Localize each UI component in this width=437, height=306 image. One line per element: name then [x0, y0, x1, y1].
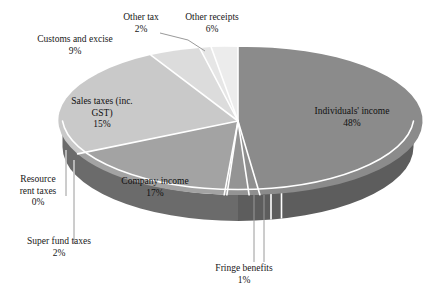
- slice-label-text: Super fund taxes: [27, 236, 91, 246]
- slice-label-individuals-income: Individuals' income 48%: [300, 106, 404, 129]
- slice-label-text: Other receipts: [185, 12, 239, 22]
- slice-label-sales-taxes-gst: Sales taxes (inc. GST) 15%: [56, 96, 148, 131]
- slice-label-text-2: rent taxes: [4, 186, 72, 198]
- slice-label-percent: 0%: [4, 197, 72, 209]
- slice-label-text-2: GST): [56, 108, 148, 120]
- slice-label-super-fund-taxes: Super fund taxes 2%: [4, 236, 114, 259]
- slice-label-text: Individuals' income: [315, 106, 390, 116]
- slice-label-percent: 1%: [190, 275, 298, 287]
- slice-label-percent: 48%: [300, 118, 404, 130]
- slice-label-text: Resource: [20, 174, 55, 184]
- slice-label-percent: 2%: [4, 248, 114, 260]
- slice-label-text: Sales taxes (inc.: [71, 96, 132, 106]
- slice-label-text: Other tax: [123, 12, 159, 22]
- slice-label-percent: 17%: [100, 188, 210, 200]
- slice-label-company-income: Company income 17%: [100, 176, 210, 199]
- slice-label-text: Fringe benefits: [215, 263, 272, 273]
- slice-label-percent: 6%: [168, 24, 256, 36]
- pie-chart-figure: Individuals' income 48% Other receipts 6…: [0, 0, 437, 306]
- slice-label-text: Customs and excise: [37, 34, 112, 44]
- slice-label-percent: 15%: [56, 119, 148, 131]
- slice-label-other-tax: Other tax 2%: [112, 12, 170, 35]
- slice-label-resource-rent-taxes: Resource rent taxes 0%: [4, 174, 72, 209]
- slice-label-customs-and-excise: Customs and excise 9%: [22, 34, 128, 57]
- slice-label-text: Company income: [121, 176, 188, 186]
- slice-label-percent: 9%: [22, 46, 128, 58]
- slice-label-other-receipts: Other receipts 6%: [168, 12, 256, 35]
- slice-label-fringe-benefits: Fringe benefits 1%: [190, 263, 298, 286]
